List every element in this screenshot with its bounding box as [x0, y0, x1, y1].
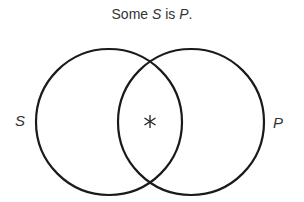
label-p: P: [273, 114, 283, 131]
asterisk-icon: [145, 115, 156, 128]
label-s: S: [15, 112, 25, 129]
venn-diagram: [0, 0, 304, 202]
circle-p: [118, 49, 264, 195]
circle-s: [36, 49, 182, 195]
